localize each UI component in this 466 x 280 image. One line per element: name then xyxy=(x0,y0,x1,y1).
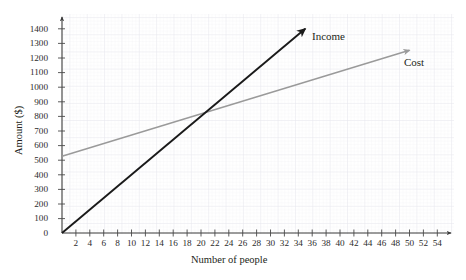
y-tick-label: 1100 xyxy=(8,68,48,77)
y-tick-label: 1300 xyxy=(8,39,48,48)
y-tick-label: 1200 xyxy=(8,54,48,63)
y-origin-label: 0 xyxy=(8,229,48,238)
series-label-cost: Cost xyxy=(404,57,424,68)
y-tick-label: 1400 xyxy=(8,25,48,34)
chart-figure: 1400 1300 1200 1100 1000 900 800 700 600… xyxy=(0,0,466,280)
y-axis-title: Amount ($) xyxy=(14,106,25,155)
x-axis-title: Number of people xyxy=(191,255,267,266)
grid-background xyxy=(62,14,454,234)
x-tick-label: 54 xyxy=(427,239,447,248)
series-label-income: Income xyxy=(312,31,345,42)
y-tick-label: 500 xyxy=(8,156,48,165)
y-tick-label: 100 xyxy=(8,214,48,223)
y-tick-label: 1000 xyxy=(8,83,48,92)
y-tick-label: 200 xyxy=(8,200,48,209)
y-tick-label: 300 xyxy=(8,185,48,194)
y-tick-label: 400 xyxy=(8,171,48,180)
